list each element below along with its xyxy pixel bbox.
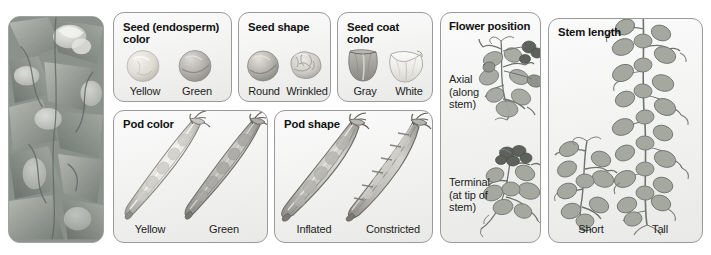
panel-stem-length: Stem length	[548, 18, 703, 243]
variant-label-green-pod: Green	[198, 223, 250, 235]
pea-plant-tall-icon	[603, 18, 703, 235]
pea-plant-flowers-photo	[9, 17, 103, 239]
variant-label-wrinkled-seed: Wrinkled	[281, 85, 331, 97]
panel-title-flower-position: Flower position	[449, 20, 541, 32]
pea-pod-dark-icon	[178, 113, 268, 225]
variant-label-inflated-pod: Inflated	[283, 223, 345, 235]
pea-pod-constricted-icon	[337, 113, 433, 225]
pea-seed-wrinkled-icon	[287, 49, 327, 83]
seed-coat-white-icon	[387, 47, 429, 85]
pea-seed-round-dark-icon	[176, 49, 218, 83]
panel-title-seed-shape: Seed shape	[248, 21, 330, 33]
variant-label-white-coat: White	[386, 85, 432, 97]
panel-flower-position: Flower position	[440, 12, 541, 243]
variant-label-tall-stem: Tall	[633, 223, 687, 235]
variant-label-gray-coat: Gray	[342, 85, 388, 97]
variant-label-short-stem: Short	[561, 223, 621, 235]
mendel-pea-traits-figure: Seed (endosperm)color Yellow Green Seed …	[0, 0, 711, 255]
variant-label-yellow-seed: Yellow	[122, 85, 168, 97]
variant-label-yellow-pod: Yellow	[124, 223, 176, 235]
pea-seed-smooth-icon	[245, 49, 283, 83]
variant-label-terminal: Terminal (at tip of stem)	[449, 176, 507, 214]
variant-label-constricted-pod: Constricted	[355, 223, 431, 235]
panel-seed-shape: Seed shape Round Wrinkled	[238, 12, 331, 102]
panel-title-seed-endosperm-color: Seed (endosperm)color	[123, 21, 229, 46]
pea-seed-round-light-icon	[124, 49, 166, 83]
panel-pod-color: Pod color	[113, 110, 268, 243]
panel-pod-shape: Pod shape	[274, 110, 433, 243]
seed-coat-gray-icon	[345, 47, 385, 85]
variant-label-green-seed: Green	[174, 85, 220, 97]
panel-seed-endosperm-color: Seed (endosperm)color Yellow Green	[113, 12, 232, 102]
panel-title-stem-length: Stem length	[558, 26, 653, 38]
panel-title-seed-coat-color: Seed coatcolor	[347, 21, 431, 46]
variant-label-axial: Axial (along stem)	[449, 73, 489, 111]
pea-plant-photograph-panel	[8, 16, 104, 243]
panel-seed-coat-color: Seed coatcolor Gray White	[337, 12, 433, 102]
